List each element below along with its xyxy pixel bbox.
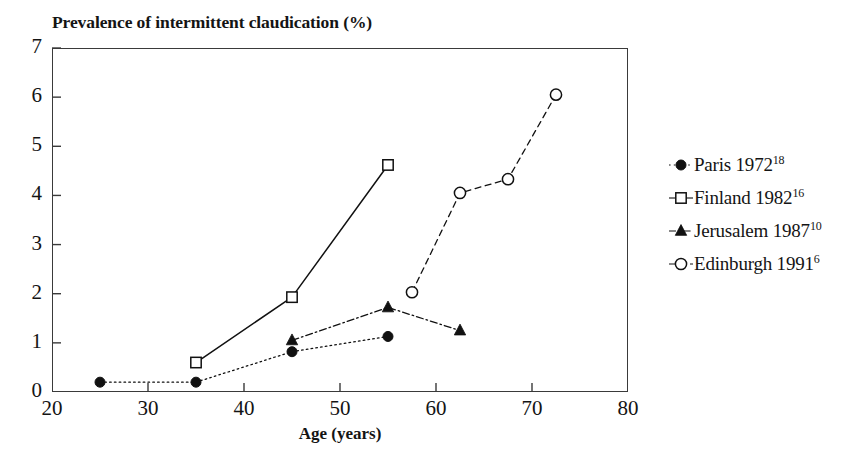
y-tick-label: 4 [12, 181, 42, 206]
legend-reference-superscript: 18 [773, 152, 785, 166]
legend-item-label: Finland 198216 [694, 187, 804, 209]
legend-marker-open-square-icon [668, 188, 694, 208]
data-point-open-square [191, 357, 201, 367]
data-point-open-square [287, 292, 297, 302]
legend-reference-superscript: 16 [792, 185, 804, 199]
x-tick-label: 60 [413, 396, 459, 421]
series-paris-1972 [95, 331, 393, 387]
x-tick-label: 40 [221, 396, 267, 421]
chart-title: Prevalence of intermittent claudication … [52, 12, 372, 33]
x-tick-label: 30 [125, 396, 171, 421]
y-tick-label: 2 [12, 280, 42, 305]
x-tick-label: 20 [29, 396, 75, 421]
data-point-filled-circle [95, 377, 105, 387]
x-axis-title: Age (years) [0, 424, 680, 444]
y-tick-label: 3 [12, 231, 42, 256]
series-line [196, 165, 388, 363]
y-tick-label: 7 [12, 34, 42, 59]
legend-marker-filled-circle-icon [668, 155, 694, 175]
legend-item-label: Jerusalem 198710 [694, 220, 822, 242]
data-point-filled-triangle [454, 324, 465, 335]
data-point-open-circle [502, 174, 513, 185]
series-line [292, 307, 460, 340]
series-edinburgh-1991 [406, 89, 561, 298]
legend-marker-filled-triangle-icon [668, 221, 694, 241]
plot-canvas [52, 48, 628, 392]
legend-item-paris-1972: Paris 197218 [668, 148, 846, 181]
legend-reference-superscript: 6 [814, 251, 820, 265]
legend-item-edinburgh-1991: Edinburgh 19916 [668, 247, 846, 280]
data-point-filled-circle [191, 377, 201, 387]
data-point-filled-circle [287, 347, 297, 357]
chart-legend: Paris 197218Finland 198216Jerusalem 1987… [668, 148, 846, 280]
x-tick-label: 80 [605, 396, 651, 421]
data-point-filled-circle [383, 331, 393, 341]
legend-item-jerusalem-1987: Jerusalem 198710 [668, 214, 846, 247]
legend-reference-superscript: 10 [810, 218, 822, 232]
data-point-open-circle [406, 287, 417, 298]
series-line [100, 336, 388, 382]
legend-item-label: Paris 197218 [694, 154, 784, 176]
series-line [412, 95, 556, 293]
x-tick-label: 50 [317, 396, 363, 421]
data-point-open-circle [454, 187, 465, 198]
data-point-open-square [676, 192, 686, 202]
data-point-open-circle [550, 89, 561, 100]
series-jerusalem-1987 [286, 301, 465, 345]
data-point-open-circle [675, 258, 686, 269]
data-point-filled-triangle [382, 301, 393, 312]
data-point-filled-triangle [675, 224, 686, 235]
figure-container: Prevalence of intermittent claudication … [0, 0, 846, 468]
y-tick-label: 6 [12, 83, 42, 108]
y-tick-label: 1 [12, 329, 42, 354]
y-tick-label: 5 [12, 132, 42, 157]
data-point-filled-circle [676, 160, 686, 170]
data-point-open-square [383, 160, 393, 170]
legend-item-label: Edinburgh 19916 [694, 253, 820, 275]
legend-marker-open-circle-icon [668, 254, 694, 274]
x-tick-label: 70 [509, 396, 555, 421]
legend-item-finland-1982: Finland 198216 [668, 181, 846, 214]
